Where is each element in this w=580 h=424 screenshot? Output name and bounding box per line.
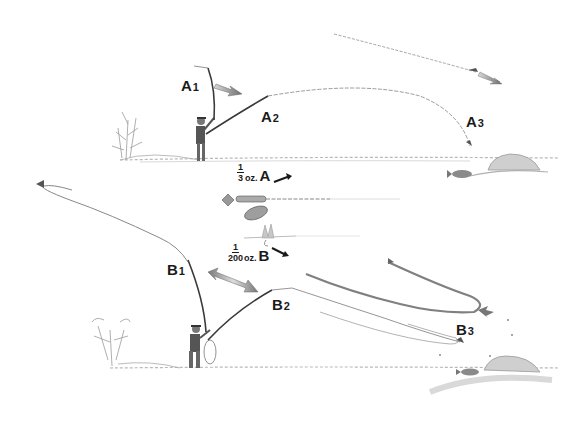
scene-b xyxy=(36,180,560,392)
fish-a-icon xyxy=(447,170,472,178)
motion-arrow-b xyxy=(208,268,258,292)
rod-a1 xyxy=(208,68,214,120)
line-b1 xyxy=(43,186,188,263)
label-b1: B1 xyxy=(167,262,185,278)
line-a xyxy=(268,88,470,146)
rod-a2 xyxy=(206,96,268,134)
motion-arrow-a xyxy=(214,84,242,96)
casting-illustration xyxy=(0,0,580,424)
spinner-lure-icon xyxy=(222,194,400,223)
rock-b-icon xyxy=(430,356,552,392)
label-b3: B3 xyxy=(456,322,474,338)
line-b2 xyxy=(272,288,460,342)
angler-a-icon xyxy=(196,117,214,161)
label-b2: B2 xyxy=(272,297,290,313)
scene-a xyxy=(112,34,560,178)
label-a2: A2 xyxy=(261,109,279,125)
line-a-top xyxy=(334,34,476,72)
angler-b-icon xyxy=(189,325,216,368)
label-a1: A1 xyxy=(181,78,199,94)
weight-label-a: 1 3 oz. A xyxy=(237,163,270,183)
bush-icon xyxy=(112,112,200,160)
label-a3: A3 xyxy=(466,114,484,130)
line-b3-loop xyxy=(306,262,480,312)
rod-b1 xyxy=(188,260,206,332)
bush-b-icon xyxy=(92,318,180,368)
rod-b2 xyxy=(208,290,272,340)
weight-label-b: 1 200 oz. B xyxy=(228,243,269,263)
fish-b-icon xyxy=(456,369,479,376)
